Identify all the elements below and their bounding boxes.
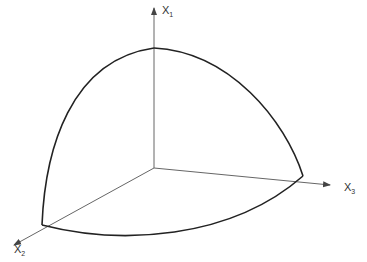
curve-x1-x3 <box>154 48 303 176</box>
diagram-canvas: X1 X3 X2 <box>0 0 367 262</box>
surface-boundary <box>42 48 303 235</box>
axis-label-x1-sub: 1 <box>169 11 173 18</box>
axis-label-x3: X3 <box>344 181 355 195</box>
axis-label-x2-sub: 2 <box>21 250 25 257</box>
octant-surface-diagram <box>0 0 367 262</box>
axis-label-x1: X1 <box>162 4 173 18</box>
axis-x3 <box>154 168 330 185</box>
axis-label-x3-sub: 3 <box>351 188 355 195</box>
curve-x2-x3 <box>42 176 303 235</box>
axis-label-x2: X2 <box>14 243 25 257</box>
